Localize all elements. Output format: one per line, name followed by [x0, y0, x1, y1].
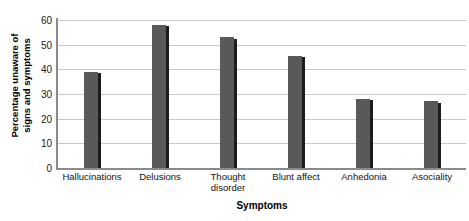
bar-slot [330, 20, 398, 168]
x-tick-label-delusions: Delusions [126, 171, 194, 182]
bar-hallucinations [84, 72, 98, 168]
x-tick-label-blunt-affect: Blunt affect [262, 171, 330, 182]
x-tick-label-asociality: Asociality [398, 171, 466, 182]
x-tick-label-anhedonia: Anhedonia [330, 171, 398, 182]
plot-area [58, 20, 466, 168]
y-tick-label: 0 [6, 163, 52, 174]
bar-delusions [152, 25, 166, 168]
bar-hallucinations-edge [98, 73, 101, 168]
y-tick-label: 50 [6, 39, 52, 50]
x-axis-line [56, 168, 466, 170]
x-axis-title: Symptoms [58, 200, 466, 211]
y-tick-label: 40 [6, 64, 52, 75]
bar-thought-disorder [220, 37, 234, 168]
x-tick-label-thought-disorder: Thought disorder [194, 171, 262, 193]
bar-blunt-affect-edge [302, 57, 305, 168]
y-tick-label: 30 [6, 89, 52, 100]
bar-slot [58, 20, 126, 168]
y-tick-label: 20 [6, 113, 52, 124]
bar-slot [398, 20, 466, 168]
bar-asociality-edge [438, 103, 441, 168]
y-tick-label: 10 [6, 138, 52, 149]
bar-slot [126, 20, 194, 168]
bar-thought-disorder-edge [234, 39, 237, 168]
x-tick-label-hallucinations: Hallucinations [58, 171, 126, 182]
y-axis-tick-labels: 60 50 40 30 20 10 0 [0, 0, 52, 221]
bar-slot [194, 20, 262, 168]
bar-anhedonia [356, 99, 370, 168]
bar-chart-figure: Percentage unaware of signs and symptoms… [0, 0, 469, 221]
bar-delusions-edge [166, 26, 169, 168]
bar-slot [262, 20, 330, 168]
bar-blunt-affect [288, 56, 302, 168]
y-tick-label: 60 [6, 15, 52, 26]
bar-anhedonia-edge [370, 100, 373, 168]
x-axis-tick-labels: Hallucinations Delusions Thought disorde… [58, 171, 466, 201]
bar-asociality [424, 101, 438, 168]
